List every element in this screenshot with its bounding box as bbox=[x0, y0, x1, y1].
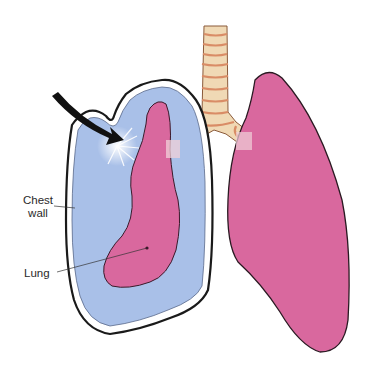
bronchus-junction-left bbox=[166, 140, 180, 158]
bronchus-junction-right bbox=[236, 132, 252, 150]
normal-lung bbox=[228, 72, 349, 352]
pneumothorax-diagram bbox=[0, 0, 369, 377]
chest-wall-label-line2: wall bbox=[18, 207, 58, 220]
chest-wall-label: Chest wall bbox=[18, 194, 58, 220]
lung-leader-dot bbox=[145, 246, 148, 249]
chest-wall-label-line1: Chest bbox=[18, 194, 58, 207]
lung-label: Lung bbox=[24, 267, 50, 280]
